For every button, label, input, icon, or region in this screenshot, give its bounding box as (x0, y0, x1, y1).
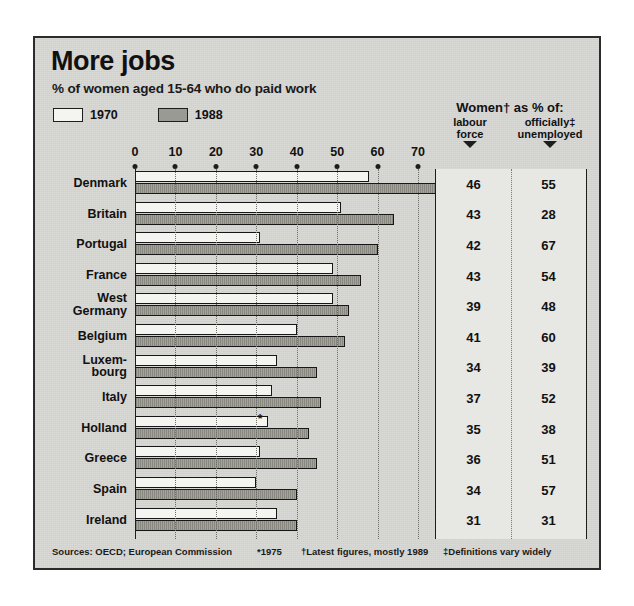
bar-1970 (135, 263, 333, 274)
table-row: 3752 (436, 383, 586, 414)
table-row: 3131 (436, 506, 586, 537)
country-label: Portugal (39, 238, 127, 251)
bar-1988 (135, 367, 317, 378)
cell-officially-unemployed: 57 (511, 475, 586, 506)
bar-1970 (135, 232, 260, 243)
bar-1988 (135, 336, 345, 347)
cell-officially-unemployed: 67 (511, 230, 586, 261)
cell-labour-force: 34 (436, 475, 511, 506)
bar-1970 (135, 508, 277, 519)
x-tick-label: 30 (249, 145, 263, 159)
bar-row (135, 506, 418, 537)
bar-row (135, 475, 418, 506)
cell-officially-unemployed: 55 (511, 169, 586, 200)
country-label: Spain (39, 483, 127, 496)
axis-baseline (135, 169, 136, 539)
bar-1988 (135, 275, 361, 286)
country-label: France (39, 269, 127, 282)
cell-officially-unemployed: 48 (511, 291, 586, 322)
table-header-main: Women† as % of: (430, 100, 590, 115)
x-tick-label: 40 (290, 145, 304, 159)
country-label: Denmark (39, 177, 127, 190)
table-header: Women† as % of: labour force officially‡… (430, 100, 590, 148)
gridline (337, 169, 338, 539)
bar-row (135, 444, 418, 475)
cell-officially-unemployed: 54 (511, 261, 586, 292)
down-arrow-icon (543, 141, 557, 148)
country-label: WestGermany (39, 292, 127, 317)
bar-1970 (135, 446, 260, 457)
bar-1988 (135, 458, 317, 469)
x-tick-label: 70 (411, 145, 425, 159)
data-table: 4655432842674354394841603439375235383651… (435, 169, 587, 539)
cell-officially-unemployed: 31 (511, 506, 586, 537)
x-tick-label: 20 (209, 145, 223, 159)
country-label: Britain (39, 208, 127, 221)
table-row: 3439 (436, 353, 586, 384)
cell-labour-force: 46 (436, 169, 511, 200)
legend-label-1988: 1988 (195, 108, 223, 122)
gridline (175, 169, 176, 539)
legend-item-1988: 1988 (158, 108, 223, 122)
table-row: 3948 (436, 291, 586, 322)
bar-1970 (135, 171, 369, 182)
bar-1988 (135, 183, 442, 194)
bar-row (135, 291, 418, 322)
gridline (297, 169, 298, 539)
gridline (378, 169, 379, 539)
cell-officially-unemployed: 51 (511, 444, 586, 475)
x-tick-label: 10 (168, 145, 182, 159)
cell-labour-force: 34 (436, 353, 511, 384)
bar-row (135, 169, 418, 200)
cell-labour-force: 42 (436, 230, 511, 261)
x-tick-label: 60 (371, 145, 385, 159)
footnote-dagger: †Latest figures, mostly 1989 (301, 546, 428, 557)
chart-panel: More jobs % of women aged 15-64 who do p… (33, 36, 601, 570)
country-label: Luxem-bourg (39, 354, 127, 379)
cell-labour-force: 43 (436, 200, 511, 231)
table-header-labour-force-line2: force (430, 129, 510, 141)
cell-officially-unemployed: 38 (511, 414, 586, 445)
bar-1970 (135, 293, 333, 304)
x-axis: 010203040506070 (135, 145, 418, 165)
country-label: Greece (39, 452, 127, 465)
x-tick-label: 0 (132, 145, 139, 159)
cell-labour-force: 41 (436, 322, 511, 353)
x-tick-label: 50 (330, 145, 344, 159)
bar-1970: * (135, 416, 268, 427)
chart-title: More jobs (51, 46, 175, 77)
bar-1988 (135, 397, 321, 408)
bar-1970 (135, 202, 341, 213)
gridline (418, 169, 419, 539)
bar-1988 (135, 214, 394, 225)
table-row: 3651 (436, 444, 586, 475)
footnote-doubledagger: ‡Definitions vary widely (443, 546, 551, 557)
table-row: 4267 (436, 230, 586, 261)
table-header-unemployed-line1: officially‡ (510, 117, 590, 129)
bar-row (135, 261, 418, 292)
bar-row: * (135, 414, 418, 445)
table-row: 4160 (436, 322, 586, 353)
bar-row (135, 353, 418, 384)
bar-1970 (135, 355, 277, 366)
legend-item-1970: 1970 (53, 108, 118, 122)
table-header-labour-force: labour force (430, 117, 510, 148)
bar-row (135, 200, 418, 231)
cell-labour-force: 36 (436, 444, 511, 475)
table-row: 4328 (436, 200, 586, 231)
footnote-sources: Sources: OECD; European Commission (52, 546, 232, 557)
table-row: 4354 (436, 261, 586, 292)
table-header-unemployed: officially‡ unemployed (510, 117, 590, 148)
bar-row (135, 383, 418, 414)
legend-swatch-1970 (53, 108, 83, 122)
table-row: 3538 (436, 414, 586, 445)
table-row: 4655 (436, 169, 586, 200)
gridline (256, 169, 257, 539)
bar-1970 (135, 477, 256, 488)
country-label: Holland (39, 422, 127, 435)
table-header-labour-force-line1: labour (430, 117, 510, 129)
legend-swatch-1988 (158, 108, 188, 122)
table-row: 3457 (436, 475, 586, 506)
footnote-star: *1975 (257, 546, 282, 557)
legend-label-1970: 1970 (90, 108, 118, 122)
